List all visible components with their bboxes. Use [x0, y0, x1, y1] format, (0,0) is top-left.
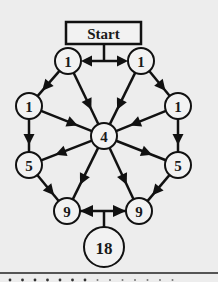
- node-n6: 5: [16, 152, 42, 178]
- node-value: 4: [100, 129, 108, 145]
- arrowhead-icon: [173, 134, 184, 145]
- dot-mark: [9, 279, 12, 282]
- arrowhead-icon: [80, 205, 93, 217]
- node-n1: 1: [55, 48, 81, 74]
- nodes-layer: 11114559918: [16, 48, 191, 267]
- edge-n5-n6: [41, 141, 92, 161]
- node-n5: 4: [91, 123, 117, 149]
- arrowhead-icon: [113, 205, 126, 217]
- arrowhead-icon: [24, 134, 35, 145]
- dot-mark: [134, 279, 136, 281]
- node-value: 5: [25, 158, 33, 174]
- node-value: 1: [174, 99, 182, 115]
- start-connector: [81, 44, 128, 67]
- node-value: 18: [96, 239, 113, 258]
- node-value: 9: [63, 204, 71, 220]
- node-value: 5: [174, 158, 182, 174]
- dot-mark: [21, 279, 24, 282]
- flow-diagram: Start 11114559918: [0, 0, 218, 282]
- node-n9: 9: [126, 198, 152, 224]
- node-value: 1: [25, 99, 33, 115]
- dot-mark: [97, 279, 99, 281]
- edge-n5-n8: [73, 148, 98, 200]
- dot-mark: [84, 279, 87, 282]
- edge-n2-n5: [110, 73, 135, 125]
- dot-mark: [147, 279, 149, 281]
- edge-n1-n5: [74, 73, 99, 125]
- node-n3: 1: [16, 93, 42, 119]
- dot-mark: [59, 279, 62, 282]
- dot-mark: [46, 279, 49, 282]
- merge-connector: [80, 205, 126, 227]
- node-n8: 9: [54, 198, 80, 224]
- edge-n4-n5: [116, 111, 166, 131]
- node-n4: 1: [165, 93, 191, 119]
- node-n2: 1: [128, 48, 154, 74]
- node-n7: 5: [165, 152, 191, 178]
- dot-mark: [159, 279, 161, 281]
- start-label: Start: [87, 26, 120, 42]
- arrowhead-icon: [81, 56, 92, 67]
- arrowhead-icon: [117, 56, 128, 67]
- edge-n5-n9: [109, 148, 133, 199]
- edge-n3-n5: [41, 111, 92, 131]
- node-value: 1: [137, 54, 145, 70]
- node-value: 9: [135, 204, 143, 220]
- node-n10: 18: [84, 227, 124, 267]
- dot-mark: [172, 279, 174, 281]
- dot-mark: [109, 279, 111, 281]
- diagram-canvas: Start 11114559918: [0, 0, 218, 282]
- node-value: 1: [64, 54, 72, 70]
- dot-mark: [34, 279, 37, 282]
- edge-n5-n7: [116, 141, 166, 161]
- bottom-dotted-marks: [9, 279, 174, 282]
- start-node: Start: [66, 22, 141, 44]
- dot-mark: [71, 279, 74, 282]
- dot-mark: [122, 279, 124, 281]
